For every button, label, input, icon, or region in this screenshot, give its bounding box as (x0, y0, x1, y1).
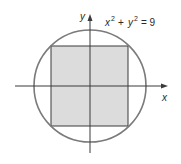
y-axis-label: y (79, 11, 86, 22)
svg-text:y: y (127, 17, 134, 28)
svg-text:2: 2 (111, 15, 115, 22)
x-axis-label: x (161, 92, 168, 103)
y-axis-arrow-icon (88, 14, 93, 21)
equation-label: x 2 + y 2 = 9 (104, 15, 156, 28)
svg-text:= 9: = 9 (141, 17, 156, 28)
svg-text:+: + (118, 17, 124, 28)
circle-square-diagram: x y x 2 + y 2 = 9 (0, 0, 181, 164)
x-axis-arrow-icon (161, 84, 168, 89)
svg-text:x: x (104, 17, 111, 28)
svg-text:2: 2 (134, 15, 138, 22)
